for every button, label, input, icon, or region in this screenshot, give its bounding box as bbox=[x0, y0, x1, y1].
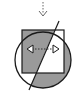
dashed-down-arrow-icon bbox=[39, 2, 47, 16]
